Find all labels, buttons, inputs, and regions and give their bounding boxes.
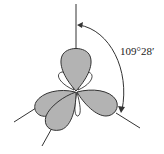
sp3-orbital-diagram (0, 0, 164, 154)
left-axis (14, 108, 36, 122)
arrowhead-top-icon (77, 22, 83, 28)
right-axis (116, 113, 140, 128)
right-lobe (77, 90, 117, 116)
front-axis (42, 128, 52, 146)
arrowhead-bottom-icon (118, 106, 125, 113)
bond-angle-label: 109°28′ (120, 45, 154, 57)
